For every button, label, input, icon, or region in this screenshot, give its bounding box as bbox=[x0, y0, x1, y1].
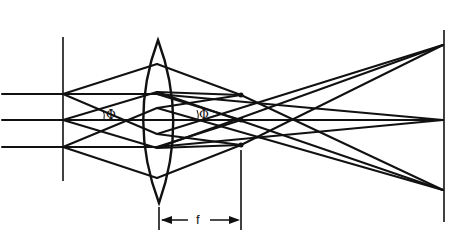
focal-length-label: f bbox=[196, 212, 200, 227]
optics-diagram: Φ Φ f bbox=[0, 0, 462, 243]
incoming-beams bbox=[2, 94, 63, 147]
angle-marker-2: Φ bbox=[197, 108, 209, 122]
phi-label-1: Φ bbox=[106, 108, 116, 122]
phi-label-2: Φ bbox=[199, 108, 209, 122]
